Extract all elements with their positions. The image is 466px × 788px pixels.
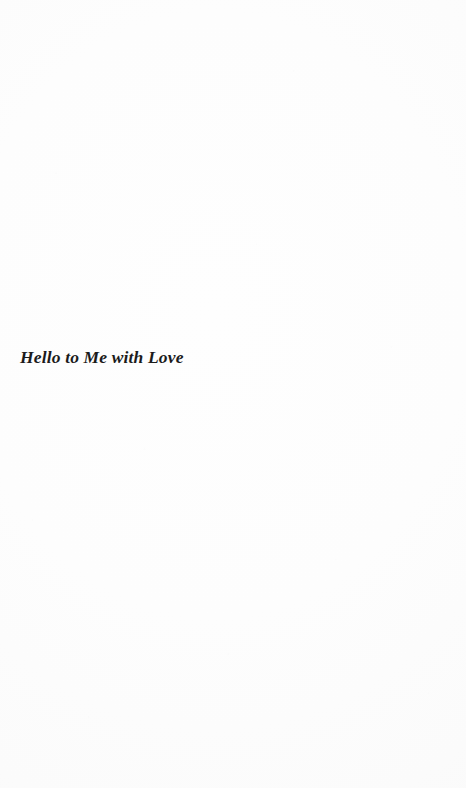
scanned-page: Hello to Me with Love — [0, 0, 466, 788]
page-title: Hello to Me with Love — [20, 346, 184, 368]
